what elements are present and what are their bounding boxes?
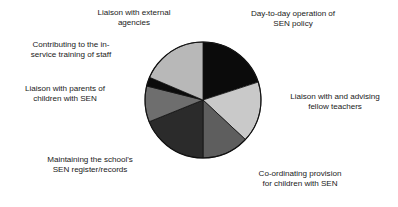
pie-label-liaison-with-external-agencies: Liaison with external agencies xyxy=(72,8,196,29)
pie-label-contributing-to-the-in-service-training-of-staff: Contributing to the in- service training… xyxy=(8,40,134,61)
pie-chart-figure: Day-to-day operation of SEN policy Liais… xyxy=(0,0,398,207)
pie-label-liaison-with-parents-of-children-with-sen: Liaison with parents of children with SE… xyxy=(2,84,128,105)
pie-label-liaison-with-and-advising-fellow-teachers: Liaison with and advising fellow teacher… xyxy=(272,92,398,113)
pie-label-day-to-day-operation-of-sen-policy: Day-to-day operation of SEN policy xyxy=(218,9,368,30)
pie-label-co-ordinating-provision-for-children-with-sen: Co-ordinating provision for children wit… xyxy=(222,169,378,190)
pie-label-maintaining-the-schools-sen-register-records: Maintaining the school's SEN register/re… xyxy=(18,155,162,176)
pie-slice-group xyxy=(145,42,261,158)
